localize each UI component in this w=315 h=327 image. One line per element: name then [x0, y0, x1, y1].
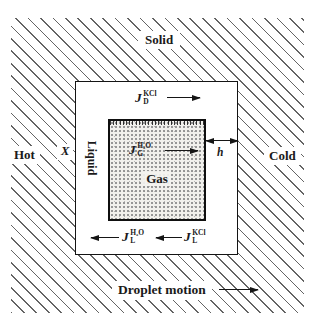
flux-subscript: L: [192, 237, 205, 245]
position-symbol-label: X: [57, 144, 73, 160]
hot-side-label: Hot: [9, 146, 40, 164]
flux-subsup: H₂O G: [137, 142, 151, 158]
flux-subsup: KCl D: [143, 90, 156, 106]
flux-subscript: D: [143, 98, 156, 106]
gap-width-symbol-label: h: [215, 146, 225, 158]
flux-symbol: J: [184, 230, 191, 244]
solid-region-label: Solid: [138, 31, 180, 49]
flux-symbol: J: [129, 143, 136, 157]
flux-symbol: J: [135, 91, 142, 105]
flux-subsup: H₂O L: [130, 229, 144, 245]
flux-subscript: G: [137, 150, 151, 158]
droplet-motion-label: Droplet motion: [112, 281, 212, 300]
flux-label-gas-h2o: J H₂O G: [129, 142, 151, 158]
arrow-left-icon: [156, 237, 182, 238]
flux-label-liquid-h2o: J H₂O L: [122, 229, 144, 245]
cold-side-label: Cold: [264, 147, 301, 165]
flux-label-solid-kcl: J KCl D: [135, 90, 157, 106]
arrow-left-icon: [91, 237, 119, 238]
flux-subsup: KCl L: [192, 229, 205, 245]
gas-bubble-rect: J H₂O G Gas: [108, 119, 206, 221]
liquid-region-label: Liquid: [86, 138, 98, 179]
gas-region-label: Gas: [110, 171, 204, 187]
flux-subscript: L: [130, 237, 144, 245]
liquid-droplet-rect: J KCl D Liquid J H₂O G Gas h: [75, 81, 238, 255]
arrow-right-icon: [165, 150, 198, 151]
flux-label-liquid-kcl: J KCl L: [184, 229, 206, 245]
droplet-migration-diagram: Solid Hot Cold X J KCl D Liquid J H₂O G: [0, 0, 315, 327]
gas-top-interface-ticks: [110, 121, 204, 125]
arrow-right-icon: [219, 289, 258, 290]
arrow-right-icon: [167, 97, 200, 98]
gap-width-double-arrow-icon: [206, 140, 238, 141]
flux-symbol: J: [122, 230, 129, 244]
